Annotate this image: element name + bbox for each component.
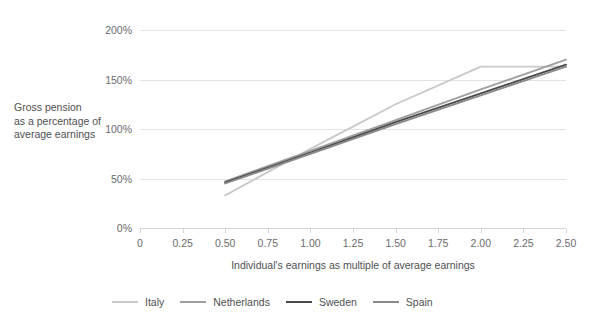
chart-legend: ItalyNetherlandsSwedenSpain	[112, 296, 449, 308]
series-line-netherlands	[225, 60, 566, 182]
chart-container: Gross pension as a percentage of average…	[0, 0, 597, 330]
legend-item-italy[interactable]: Italy	[112, 296, 164, 308]
x-axis-title: Individual's earnings as multiple of ave…	[140, 259, 566, 271]
legend-label: Sweden	[319, 296, 357, 308]
series-line-italy	[225, 67, 566, 196]
legend-swatch-icon	[180, 301, 206, 304]
legend-label: Italy	[145, 296, 164, 308]
legend-item-netherlands[interactable]: Netherlands	[180, 296, 270, 308]
series-line-spain	[225, 67, 566, 184]
legend-swatch-icon	[286, 301, 312, 304]
legend-label: Spain	[406, 296, 433, 308]
legend-item-sweden[interactable]: Sweden	[286, 296, 357, 308]
legend-swatch-icon	[373, 301, 399, 304]
plot-lines	[0, 0, 597, 330]
legend-swatch-icon	[112, 301, 138, 304]
legend-label: Netherlands	[213, 296, 270, 308]
legend-item-spain[interactable]: Spain	[373, 296, 433, 308]
